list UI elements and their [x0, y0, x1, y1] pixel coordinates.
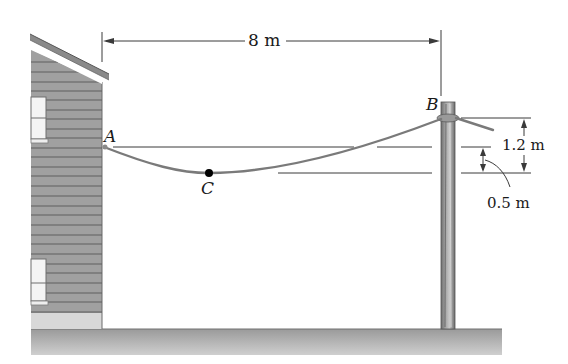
label-height-difference: 1.2 m [502, 138, 545, 153]
point-c-marker [205, 169, 213, 177]
window-lower [31, 259, 48, 305]
reference-lines [113, 118, 531, 173]
label-point-b: B [426, 96, 439, 113]
label-span: 8 m [248, 32, 280, 49]
diagram-canvas [0, 0, 568, 364]
label-sag-offset: 0.5 m [487, 196, 530, 211]
label-point-a: A [104, 128, 116, 145]
cable-diagram: A B C 8 m 1.2 m 0.5 m [0, 0, 568, 364]
house [30, 34, 109, 329]
window-upper [31, 97, 48, 143]
label-point-c: C [201, 180, 214, 197]
utility-pole [437, 102, 493, 329]
ground [31, 329, 502, 355]
cable [104, 119, 441, 173]
